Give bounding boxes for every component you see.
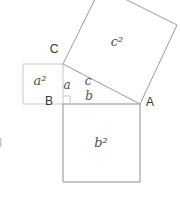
figure-canvas: a²b²c²acbABC	[0, 0, 180, 197]
vertex-label-B: B	[45, 94, 53, 108]
square-a2-label: a²	[34, 73, 47, 88]
side-label-c: c	[85, 74, 92, 88]
side-label-b: b	[85, 89, 93, 103]
side-label-a: a	[63, 78, 70, 92]
vertex-label-A: A	[146, 95, 154, 109]
square-c2-label: c²	[111, 34, 124, 49]
square-c2-outline	[63, 0, 177, 104]
square-b2-label: b²	[94, 135, 108, 150]
right-angle-marker-icon	[63, 96, 70, 104]
pythagorean-diagram: a²b²c²acbABC	[0, 0, 180, 197]
left-edge-artifact	[0, 138, 2, 147]
vertex-label-C: C	[50, 42, 59, 56]
